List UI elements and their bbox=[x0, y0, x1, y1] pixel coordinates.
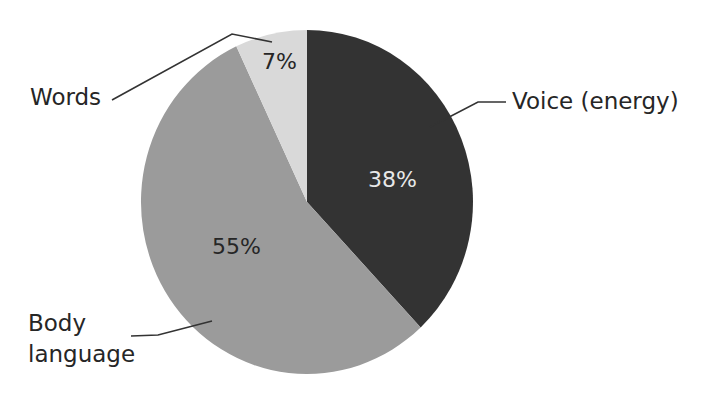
value-label-voice: 38% bbox=[368, 167, 417, 192]
pie-chart bbox=[0, 0, 704, 396]
label-words: Words bbox=[30, 84, 101, 112]
label-voice: Voice (energy) bbox=[512, 88, 679, 116]
label-body-line2: language bbox=[28, 341, 135, 369]
value-label-words: 7% bbox=[262, 49, 297, 74]
label-body-line1: Body bbox=[28, 310, 86, 338]
pie-slices bbox=[141, 30, 473, 374]
value-label-body: 55% bbox=[212, 234, 261, 259]
